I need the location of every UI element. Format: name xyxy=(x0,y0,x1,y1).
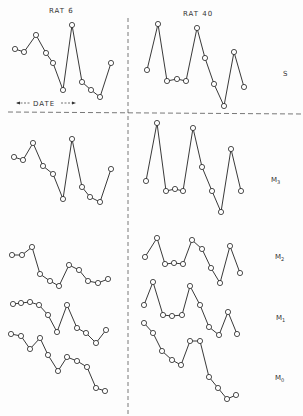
data-point xyxy=(27,299,32,304)
data-point xyxy=(180,188,185,193)
series-rat-40-m3 xyxy=(143,120,243,214)
svg-text:S: S xyxy=(283,70,288,78)
data-point xyxy=(169,313,174,318)
data-point xyxy=(60,196,65,201)
data-point xyxy=(197,338,202,343)
data-point xyxy=(190,125,195,130)
data-point xyxy=(69,136,74,141)
date-label: DATE xyxy=(33,100,55,108)
svg-text:M0: M0 xyxy=(275,374,284,383)
data-point xyxy=(50,171,55,176)
data-point xyxy=(95,280,100,285)
data-point xyxy=(64,302,69,307)
data-point xyxy=(79,79,84,84)
data-point xyxy=(97,199,102,204)
data-point xyxy=(45,352,50,357)
data-point xyxy=(43,50,48,55)
data-point xyxy=(216,332,221,337)
data-point xyxy=(97,94,102,99)
svg-text:M1: M1 xyxy=(276,314,285,323)
data-point xyxy=(164,78,169,83)
data-point xyxy=(171,260,176,265)
data-point xyxy=(93,340,98,345)
data-point xyxy=(172,186,177,191)
data-point xyxy=(142,254,147,259)
data-point xyxy=(174,76,179,81)
data-point xyxy=(108,166,113,171)
data-point xyxy=(108,60,113,65)
data-point xyxy=(20,157,25,162)
data-point xyxy=(144,67,149,72)
data-point xyxy=(74,325,79,330)
data-point xyxy=(179,312,184,317)
data-point xyxy=(225,309,230,314)
data-point xyxy=(11,154,16,159)
data-point xyxy=(83,330,88,335)
series-rat-6-m3 xyxy=(11,136,113,204)
data-point xyxy=(54,329,59,334)
data-point xyxy=(215,385,220,390)
series-rat-6-m1 xyxy=(10,299,108,345)
data-point xyxy=(66,262,71,267)
data-point xyxy=(27,346,32,351)
data-point xyxy=(40,163,45,168)
data-point xyxy=(217,280,222,285)
data-point xyxy=(102,388,107,393)
figure: RAT 6 RAT 40 DATE S S M3 M2 M1 M0 xyxy=(0,0,303,416)
data-point xyxy=(47,278,52,283)
data-point xyxy=(221,103,226,108)
data-point xyxy=(64,354,69,359)
data-point xyxy=(202,55,207,60)
data-point xyxy=(162,261,167,266)
data-point xyxy=(45,312,50,317)
data-point xyxy=(160,312,165,317)
data-point xyxy=(29,244,34,249)
data-point xyxy=(194,25,199,30)
data-point xyxy=(21,49,26,54)
series-rat-6-s xyxy=(12,22,113,99)
row-label-m0: M0 xyxy=(275,374,284,383)
data-point xyxy=(9,252,14,257)
data-point xyxy=(241,84,246,89)
row-label-s: S S xyxy=(283,70,288,78)
data-point xyxy=(37,271,42,276)
data-point xyxy=(105,276,110,281)
data-point xyxy=(74,358,79,363)
data-point xyxy=(30,140,35,145)
data-point xyxy=(159,348,164,353)
data-point xyxy=(234,331,239,336)
data-point xyxy=(84,364,89,369)
series-rat-40-m0 xyxy=(141,320,238,401)
data-point xyxy=(199,164,204,169)
data-point xyxy=(206,374,211,379)
line-chart-grid: RAT 6 RAT 40 DATE S S M3 M2 M1 M0 xyxy=(0,0,303,416)
data-point xyxy=(150,330,155,335)
data-point xyxy=(79,184,84,189)
data-point xyxy=(224,396,229,401)
row-label-m3: M3 xyxy=(271,176,280,185)
data-point xyxy=(76,267,81,272)
data-point xyxy=(150,279,155,284)
data-point xyxy=(189,237,194,242)
date-arrow: DATE xyxy=(16,100,76,108)
data-point xyxy=(85,278,90,283)
data-point xyxy=(87,194,92,199)
data-point xyxy=(163,188,168,193)
title-rat-40: RAT 40 xyxy=(183,10,213,18)
data-point xyxy=(12,46,17,51)
data-point xyxy=(36,302,41,307)
data-point xyxy=(18,300,23,305)
data-point xyxy=(180,261,185,266)
data-point xyxy=(206,324,211,329)
data-point xyxy=(197,302,202,307)
series-rat-6-m2 xyxy=(9,244,110,288)
data-point xyxy=(154,120,159,125)
data-point xyxy=(211,81,216,86)
data-point xyxy=(187,338,192,343)
svg-text:M3: M3 xyxy=(271,176,280,185)
data-point xyxy=(187,283,192,288)
data-point xyxy=(178,362,183,367)
title-rat-6: RAT 6 xyxy=(49,7,74,15)
series-rat-40-m2 xyxy=(142,235,242,285)
data-point xyxy=(199,246,204,251)
